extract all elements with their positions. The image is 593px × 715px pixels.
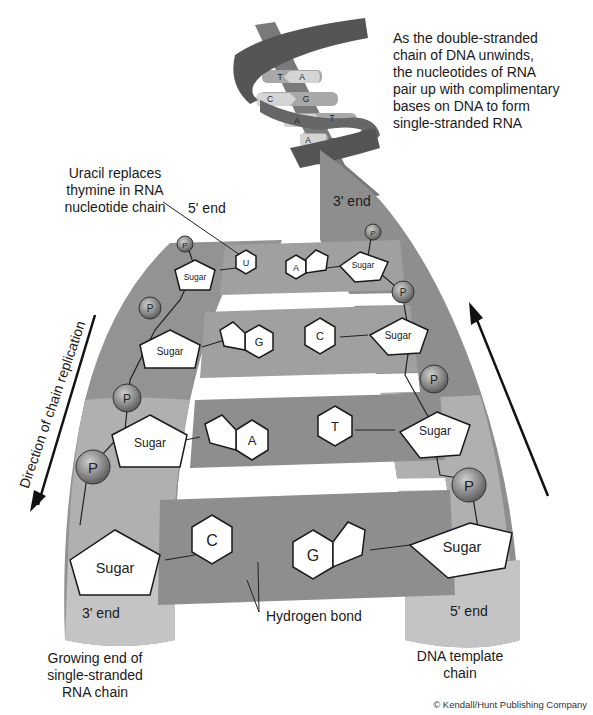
svg-text:P: P <box>430 373 438 387</box>
svg-text:T: T <box>331 419 339 434</box>
svg-text:A: A <box>248 433 257 448</box>
intro-line: As the double-stranded <box>393 30 560 47</box>
uracil-line: thymine in RNA <box>50 182 180 199</box>
svg-text:P: P <box>123 392 131 406</box>
svg-text:G: G <box>307 547 319 564</box>
intro-line: bases on DNA to form <box>393 98 560 115</box>
uracil-line: nucleotide chain <box>50 199 180 216</box>
svg-text:Sugar: Sugar <box>443 539 482 555</box>
growing-end-line: Growing end of <box>35 650 155 667</box>
svg-text:U: U <box>243 258 250 268</box>
svg-text:Sugar: Sugar <box>352 260 375 270</box>
svg-text:P: P <box>182 241 187 250</box>
copyright-notice: © Kendall/Hunt Publishing Company <box>433 699 587 711</box>
intro-line: single-stranded RNA <box>393 115 560 132</box>
svg-text:T: T <box>329 113 334 123</box>
svg-text:G: G <box>255 336 264 348</box>
svg-text:G: G <box>303 94 310 104</box>
svg-text:P: P <box>370 229 375 238</box>
svg-text:P: P <box>400 287 407 298</box>
svg-text:C: C <box>206 532 218 549</box>
template-annotation: DNA template chain <box>410 648 510 682</box>
svg-text:Sugar: Sugar <box>385 330 412 341</box>
intro-line: the nucleotides of RNA <box>393 64 560 81</box>
right-top-end-label: 3' end <box>333 193 371 210</box>
svg-text:Sugar: Sugar <box>184 272 207 282</box>
svg-text:A: A <box>293 263 299 273</box>
template-line: DNA template <box>410 648 510 665</box>
svg-text:A: A <box>305 135 311 145</box>
intro-line: pair up with complimentary <box>393 81 560 98</box>
growing-end-annotation: Growing end of single-stranded RNA chain <box>35 650 155 701</box>
template-line: chain <box>410 665 510 682</box>
svg-text:Sugar: Sugar <box>96 560 135 576</box>
left-top-end-label: 5' end <box>188 200 226 217</box>
svg-text:P: P <box>88 459 98 476</box>
svg-text:P: P <box>464 477 474 494</box>
svg-text:A: A <box>294 116 300 126</box>
intro-annotation: As the double-stranded chain of DNA unwi… <box>393 30 560 132</box>
svg-text:A: A <box>299 72 305 82</box>
right-bottom-end-label: 5' end <box>450 603 488 620</box>
left-bottom-end-label: 3' end <box>82 605 120 622</box>
intro-line: chain of DNA unwinds, <box>393 47 560 64</box>
svg-text:Sugar: Sugar <box>157 346 184 357</box>
svg-text:T: T <box>277 72 282 82</box>
growing-end-line: RNA chain <box>35 684 155 701</box>
svg-text:C: C <box>316 330 324 342</box>
uracil-annotation: Uracil replaces thymine in RNA nucleotid… <box>50 165 180 216</box>
growing-end-line: single-stranded <box>35 667 155 684</box>
svg-text:C: C <box>267 94 273 104</box>
svg-text:Sugar: Sugar <box>419 424 451 438</box>
svg-text:Sugar: Sugar <box>134 436 166 450</box>
svg-text:P: P <box>147 303 154 314</box>
dna-double-helix: T A C G A T A <box>233 18 380 205</box>
uracil-line: Uracil replaces <box>50 165 180 182</box>
hydrogen-bond-label: Hydrogen bond <box>266 608 362 625</box>
